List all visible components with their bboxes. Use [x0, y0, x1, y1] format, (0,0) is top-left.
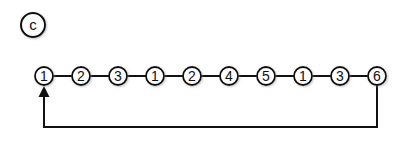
sequence-node: 1	[294, 67, 312, 85]
svg-text:1: 1	[299, 68, 307, 84]
svg-text:1: 1	[40, 68, 48, 84]
svg-text:5: 5	[262, 68, 270, 84]
sequence-node: 4	[220, 67, 238, 85]
sequence-node: 3	[109, 67, 127, 85]
panel-label: c	[21, 13, 45, 37]
panel-label-text: c	[29, 16, 37, 33]
loop-arrowhead-icon	[39, 86, 50, 97]
sequence-node: 1	[35, 67, 53, 85]
sequence-node: 6	[368, 67, 386, 85]
svg-text:3: 3	[114, 68, 122, 84]
sequence-node: 2	[72, 67, 90, 85]
svg-text:4: 4	[225, 68, 233, 84]
sequence-node: 3	[331, 67, 349, 85]
svg-text:2: 2	[77, 68, 85, 84]
svg-text:2: 2	[188, 68, 196, 84]
svg-text:6: 6	[373, 68, 381, 84]
sequence-node: 2	[183, 67, 201, 85]
sequence-node: 1	[146, 67, 164, 85]
svg-text:1: 1	[151, 68, 159, 84]
loop-return-line	[44, 85, 377, 127]
diagram-canvas: c 1 2 3 1 2 4 5 1 3 6	[0, 0, 413, 144]
svg-text:3: 3	[336, 68, 344, 84]
sequence-node: 5	[257, 67, 275, 85]
